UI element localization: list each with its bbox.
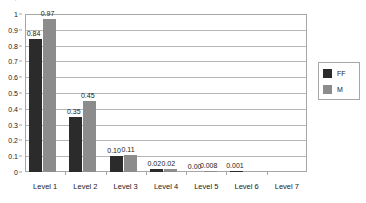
legend-color-swatch <box>323 85 332 94</box>
y-axis-tick-label: 1 <box>14 11 18 18</box>
y-axis-tick-mark <box>19 172 22 173</box>
x-axis-tick-label: Level 2 <box>65 182 105 191</box>
y-axis-tick-mark <box>19 156 22 157</box>
y-axis-tick-label: 0.4 <box>8 105 18 112</box>
x-axis-tick-mark <box>267 172 268 175</box>
bar <box>29 39 42 172</box>
bar-group: 0.100.11 <box>106 14 146 172</box>
bar-group: 0.001 <box>226 14 266 172</box>
legend-color-swatch <box>323 69 332 78</box>
bar-group: 0.000.008 <box>186 14 226 172</box>
bar-value-label: 0.45 <box>77 92 98 99</box>
bar <box>164 169 177 172</box>
y-axis-tick-mark <box>19 45 22 46</box>
y-axis-tick-label: 0.1 <box>8 153 18 160</box>
y-axis-tick-label: 0.5 <box>8 90 18 97</box>
bar-value-label: 0.97 <box>37 10 58 17</box>
legend-item: M <box>323 83 356 95</box>
bar-value-label: 0.84 <box>23 30 44 37</box>
bar <box>110 156 123 172</box>
chart-legend: FFM <box>318 62 360 100</box>
bar-value-label: 0.001 <box>224 162 245 169</box>
bar-value-label: 0.11 <box>118 146 139 153</box>
bar-value-label: 0.35 <box>63 108 84 115</box>
y-axis-tick-label: 0.2 <box>8 137 18 144</box>
x-axis-tick-label: Level 3 <box>106 182 146 191</box>
y-axis-tick-mark <box>19 124 22 125</box>
y-axis-tick-label: 0 <box>14 169 18 176</box>
x-axis-tick-mark <box>186 172 187 175</box>
x-axis: Level 1Level 2Level 3Level 4Level 5Level… <box>25 182 307 194</box>
y-axis-tick-mark <box>19 93 22 94</box>
y-axis-tick-label: 0.8 <box>8 42 18 49</box>
x-axis-tick-label: Level 6 <box>226 182 266 191</box>
y-axis-tick-mark <box>19 29 22 30</box>
bar-group: 0.020.02 <box>146 14 186 172</box>
bar-group <box>267 14 307 172</box>
x-axis-tick-label: Level 1 <box>25 182 65 191</box>
legend-item: FF <box>323 67 356 79</box>
bar <box>150 169 163 172</box>
bar <box>230 171 243 172</box>
y-axis-tick-label: 0.7 <box>8 58 18 65</box>
bar-value-label: 0.008 <box>198 162 219 169</box>
x-axis-tick-mark <box>146 172 147 175</box>
y-axis: 10.90.80.70.60.50.40.30.20.10 <box>0 14 22 172</box>
bar-value-label: 0.02 <box>158 160 179 167</box>
bar-group: 0.840.97 <box>25 14 65 172</box>
bar <box>204 171 217 172</box>
bar <box>69 117 82 172</box>
y-axis-tick-label: 0.3 <box>8 121 18 128</box>
y-axis-tick-mark <box>19 61 22 62</box>
bar <box>124 155 137 172</box>
bars-layer: 0.840.970.350.450.100.110.020.020.000.00… <box>25 14 307 172</box>
y-axis-tick-mark <box>19 77 22 78</box>
y-axis-tick-mark <box>19 14 22 15</box>
x-axis-tick-label: Level 4 <box>146 182 186 191</box>
y-axis-tick-mark <box>19 140 22 141</box>
legend-label: FF <box>337 70 346 77</box>
x-axis-tick-label: Level 7 <box>267 182 307 191</box>
bar-group: 0.350.45 <box>65 14 105 172</box>
x-axis-tick-mark <box>226 172 227 175</box>
x-axis-tick-mark <box>106 172 107 175</box>
x-axis-tick-mark <box>65 172 66 175</box>
bar <box>83 101 96 172</box>
x-axis-tick-label: Level 5 <box>186 182 226 191</box>
y-axis-tick-label: 0.6 <box>8 74 18 81</box>
legend-label: M <box>337 86 343 93</box>
bar <box>43 19 56 172</box>
y-axis-tick-label: 0.9 <box>8 26 18 33</box>
y-axis-tick-mark <box>19 108 22 109</box>
bar-chart: 10.90.80.70.60.50.40.30.20.10 0.840.970.… <box>0 0 366 203</box>
